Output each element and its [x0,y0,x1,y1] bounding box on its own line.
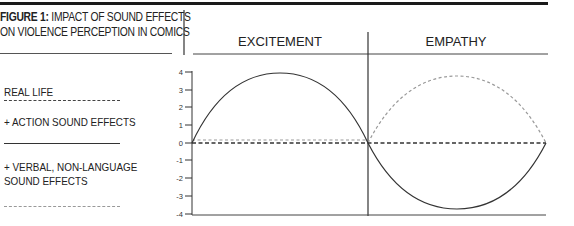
panel-label-empathy: EMPATHY [426,34,487,49]
y-tick-label: -1 [176,156,183,165]
chart-area: EXCITEMENT EMPATHY 4 3 2 1 0 -1 -2 -3 -4 [0,0,574,226]
y-ticks [185,72,192,214]
y-tick-label: 0 [179,139,183,148]
y-tick-label: -3 [176,192,183,201]
series-verbal-empathy [368,76,546,143]
y-tick-label: 1 [179,121,183,130]
y-tick-label: 3 [179,86,183,95]
y-tick-label: -2 [176,174,183,183]
y-tick-label: -4 [176,210,183,219]
y-tick-label: 4 [179,68,183,77]
y-tick-labels: 4 3 2 1 0 -1 -2 -3 -4 [176,68,183,219]
y-tick-label: 2 [179,103,183,112]
panel-label-excitement: EXCITEMENT [238,34,322,49]
